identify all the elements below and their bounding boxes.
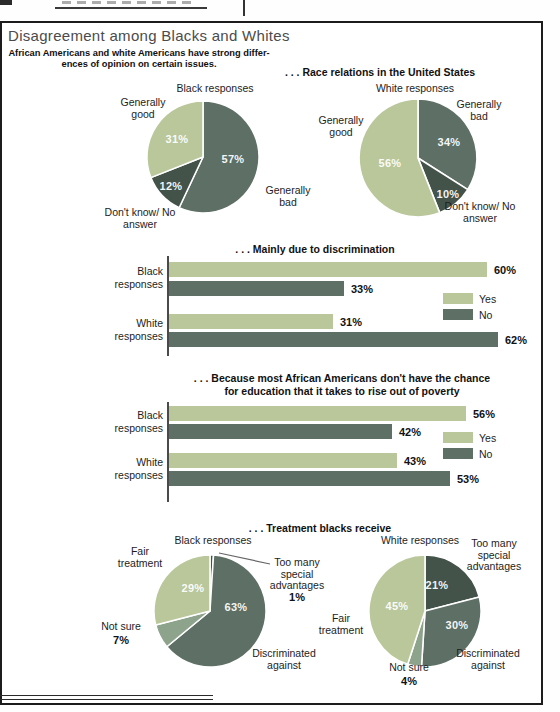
pie-pct-34: 34% bbox=[438, 136, 461, 148]
pie-label-advantages-black: Too many special advantages bbox=[260, 557, 334, 592]
figure-subtitle-line1: African Americans and white Americans ha… bbox=[3, 48, 275, 59]
pie-label-advantages-white: Too many special advantages bbox=[457, 538, 531, 573]
bar-rowlabel-black-2: Black responses bbox=[101, 409, 163, 435]
legend-swatch-no-2 bbox=[443, 448, 473, 459]
section-heading-education-line2: for education that it takes to rise out … bbox=[142, 385, 542, 398]
pie-label-fair-treatment-white: Fair treatment bbox=[313, 613, 369, 636]
bar-rowlabel-black: Black responses bbox=[101, 265, 163, 291]
pie-pct-63: 63% bbox=[225, 601, 248, 613]
bar-white-no bbox=[169, 332, 498, 347]
pie-title-race-white: White responses bbox=[376, 83, 454, 95]
pie-label-discriminated-white: Discriminated against bbox=[443, 648, 533, 671]
legend-swatch-yes-2 bbox=[443, 432, 473, 443]
pie-title-treatment-white: White responses bbox=[381, 535, 459, 547]
pie-label-not-sure-black: Not sure bbox=[91, 621, 151, 633]
page-column-tick bbox=[243, 0, 245, 16]
corner-mark bbox=[0, 0, 12, 5]
bar-pct-31: 31% bbox=[340, 316, 362, 328]
pie-label-generally-bad-white: Generally bad bbox=[449, 99, 509, 122]
section-heading-education: . . . Because most African Americans don… bbox=[142, 372, 542, 398]
bar-rowlabel-white-2: White responses bbox=[101, 456, 163, 482]
bar-white-yes-2 bbox=[169, 453, 397, 468]
bar-pct-42: 42% bbox=[399, 426, 421, 438]
pie-pct-7: 7% bbox=[113, 634, 129, 646]
bar-pct-43: 43% bbox=[404, 455, 426, 467]
pie-title-race-black: Black responses bbox=[176, 83, 253, 95]
figure-label-underline bbox=[55, 7, 207, 9]
figure-label-remnant bbox=[62, 1, 194, 4]
pie-pct-12: 12% bbox=[160, 180, 183, 192]
legend-label-yes-2: Yes bbox=[479, 432, 496, 444]
bar-black-yes-2 bbox=[169, 406, 466, 421]
bar-black-yes bbox=[169, 262, 487, 277]
pie-pct-31: 31% bbox=[166, 133, 189, 145]
pie-pct-56: 56% bbox=[379, 157, 402, 169]
page: Disagreement among Blacks and Whites Afr… bbox=[0, 0, 560, 712]
bar-white-yes bbox=[169, 314, 333, 329]
pie-label-dont-know-black: Don't know/ No answer bbox=[98, 207, 182, 230]
bottom-rule-2 bbox=[0, 699, 213, 700]
legend-swatch-yes bbox=[443, 293, 473, 304]
bottom-rule-1 bbox=[0, 695, 213, 696]
pie-label-generally-bad-black: Generally bad bbox=[258, 185, 318, 208]
bar-pct-53: 53% bbox=[457, 473, 479, 485]
pie-label-not-sure-white: Not sure bbox=[379, 662, 439, 674]
section-heading-race-relations: . . . Race relations in the United State… bbox=[230, 66, 530, 79]
figure-title: Disagreement among Blacks and Whites bbox=[8, 27, 290, 44]
legend-label-no-2: No bbox=[479, 448, 492, 460]
pie-pct-57: 57% bbox=[222, 153, 245, 165]
bar-rowlabel-white: White responses bbox=[101, 317, 163, 343]
pie-label-fair-treatment-black: Fair treatment bbox=[112, 546, 168, 569]
pie-pct-10: 10% bbox=[437, 188, 460, 200]
bar-pct-33: 33% bbox=[351, 283, 373, 295]
pie-pct-1: 1% bbox=[289, 591, 305, 603]
bar-pct-56: 56% bbox=[473, 408, 495, 420]
pie-label-generally-good-white: Generally good bbox=[311, 115, 371, 138]
pie-pct-30: 30% bbox=[446, 619, 469, 631]
pie-pct-45: 45% bbox=[386, 600, 409, 612]
bar-black-no-2 bbox=[169, 424, 392, 439]
pie-label-generally-good-black: Generally good bbox=[113, 97, 173, 120]
legend-label-no: No bbox=[479, 309, 492, 321]
bar-pct-62: 62% bbox=[505, 334, 527, 346]
pie-pct-29: 29% bbox=[182, 582, 205, 594]
pie-pct-4: 4% bbox=[401, 675, 417, 687]
pie-label-dont-know-white: Don't know/ No answer bbox=[438, 201, 522, 224]
bar-white-no-2 bbox=[169, 471, 450, 486]
pie-label-discriminated-black: Discriminated against bbox=[239, 648, 329, 671]
bar-pct-60: 60% bbox=[494, 264, 516, 276]
pie-pct-21: 21% bbox=[426, 579, 449, 591]
bar-black-no bbox=[169, 281, 344, 296]
pie-title-treatment-black: Black responses bbox=[174, 535, 251, 547]
legend-swatch-no bbox=[443, 309, 473, 320]
section-heading-discrimination: . . . Mainly due to discrimination bbox=[165, 243, 465, 256]
legend-label-yes: Yes bbox=[479, 293, 496, 305]
section-heading-education-line1: . . . Because most African Americans don… bbox=[142, 372, 542, 385]
